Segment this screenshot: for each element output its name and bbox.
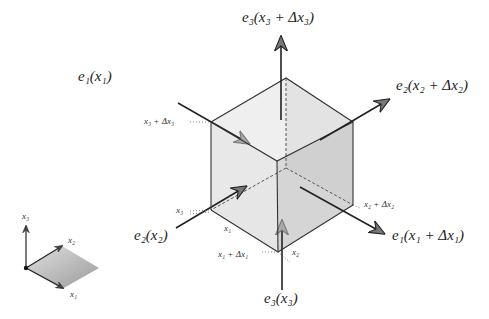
label-e3-x3-plus-dx3: e₃(x₃ + Δx₃) <box>242 10 314 25</box>
label-e2-x2-plus-dx2: e₂(x₂ + Δx₂) <box>396 78 468 93</box>
label-e1-x1-plus-dx1: e₁(x₁ + Δx₁) <box>392 228 464 243</box>
label-e1-x1: e₁(x₁) <box>78 69 112 84</box>
label-x3: x₃ <box>176 206 183 215</box>
legend-x1: x₁ <box>70 290 77 299</box>
label-x3-plus-dx3: x₃ + Δx₃ <box>144 117 174 126</box>
cube-diagram <box>0 0 489 319</box>
legend-x3: x₃ <box>22 212 29 221</box>
label-e2-x2: e₂(x₂) <box>134 228 168 243</box>
label-x2: x₂ <box>292 248 299 257</box>
label-e3-x3: e₃(x₃) <box>264 291 298 306</box>
axes-legend <box>24 226 99 289</box>
label-x1-plus-dx1: x₁ + Δx₁ <box>218 250 248 259</box>
label-x2-plus-dx2: x₂ + Δx₂ <box>364 200 394 209</box>
label-x1: x₁ <box>224 224 231 233</box>
legend-x2: x₂ <box>68 236 75 245</box>
